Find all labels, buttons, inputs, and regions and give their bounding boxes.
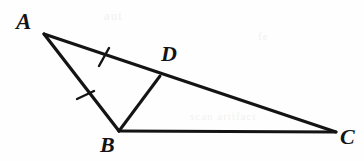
tick-on-AD	[99, 48, 109, 66]
side-BC	[119, 131, 336, 132]
vertex-label-a: A	[16, 10, 31, 33]
tick-marks-group	[77, 48, 109, 99]
triangle-drawing	[0, 0, 364, 161]
vertex-label-d: D	[161, 43, 177, 65]
vertex-label-c: C	[340, 126, 355, 148]
vertex-label-b: B	[100, 134, 115, 156]
segments-group	[44, 34, 336, 132]
geometry-figure: aut fe scan artifact A B C D	[0, 0, 364, 161]
side-AC	[44, 34, 336, 132]
cevian-BD	[119, 76, 160, 131]
